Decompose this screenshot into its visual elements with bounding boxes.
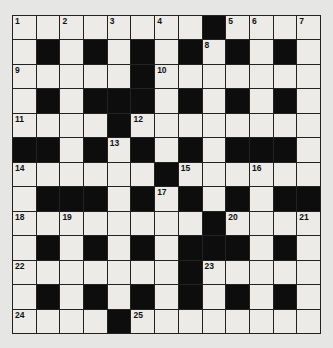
grid-cell[interactable] [60,114,83,137]
grid-cell[interactable] [274,163,297,186]
grid-cell[interactable] [155,236,178,259]
grid-cell[interactable] [84,16,107,39]
grid-cell[interactable]: 4 [155,16,178,39]
grid-cell[interactable] [37,261,60,284]
grid-cell[interactable] [155,212,178,235]
grid-cell[interactable] [37,16,60,39]
grid-cell[interactable] [226,163,249,186]
grid-cell[interactable] [155,310,178,333]
grid-cell[interactable] [131,163,154,186]
grid-cell[interactable] [131,16,154,39]
grid-cell[interactable] [203,163,226,186]
grid-cell[interactable] [274,65,297,88]
grid-cell[interactable] [37,212,60,235]
grid-cell[interactable] [274,16,297,39]
grid-cell[interactable]: 14 [13,163,36,186]
grid-cell[interactable] [84,310,107,333]
grid-cell[interactable] [60,261,83,284]
grid-cell[interactable] [250,89,273,112]
grid-cell[interactable]: 11 [13,114,36,137]
grid-cell[interactable] [250,40,273,63]
grid-cell[interactable] [297,310,320,333]
grid-cell[interactable] [60,236,83,259]
grid-cell[interactable] [226,261,249,284]
grid-cell[interactable] [226,65,249,88]
grid-cell[interactable] [203,89,226,112]
grid-cell[interactable] [274,212,297,235]
grid-cell[interactable] [250,65,273,88]
grid-cell[interactable] [13,285,36,308]
grid-cell[interactable] [226,114,249,137]
grid-cell[interactable] [250,310,273,333]
grid-cell[interactable] [37,310,60,333]
grid-cell[interactable] [250,187,273,210]
grid-cell[interactable] [13,40,36,63]
grid-cell[interactable] [203,285,226,308]
grid-cell[interactable] [274,114,297,137]
grid-cell[interactable]: 23 [203,261,226,284]
grid-cell[interactable] [297,65,320,88]
grid-cell[interactable] [297,40,320,63]
grid-cell[interactable] [155,40,178,63]
grid-cell[interactable] [108,236,131,259]
grid-cell[interactable] [60,310,83,333]
grid-cell[interactable]: 10 [155,65,178,88]
grid-cell[interactable]: 16 [250,163,273,186]
grid-cell[interactable] [60,89,83,112]
grid-cell[interactable] [297,114,320,137]
grid-cell[interactable]: 21 [297,212,320,235]
grid-cell[interactable] [84,65,107,88]
grid-cell[interactable]: 12 [131,114,154,137]
grid-cell[interactable] [155,261,178,284]
grid-cell[interactable] [297,285,320,308]
grid-cell[interactable]: 6 [250,16,273,39]
grid-cell[interactable] [60,285,83,308]
grid-cell[interactable]: 22 [13,261,36,284]
grid-cell[interactable] [226,310,249,333]
grid-cell[interactable]: 13 [108,138,131,161]
grid-cell[interactable] [155,89,178,112]
grid-cell[interactable] [13,89,36,112]
grid-cell[interactable] [179,16,202,39]
grid-cell[interactable] [297,236,320,259]
grid-cell[interactable] [60,65,83,88]
grid-cell[interactable] [155,114,178,137]
grid-cell[interactable] [155,138,178,161]
grid-cell[interactable] [297,163,320,186]
grid-cell[interactable]: 20 [226,212,249,235]
grid-cell[interactable] [179,65,202,88]
grid-cell[interactable] [60,163,83,186]
grid-cell[interactable] [179,212,202,235]
grid-cell[interactable] [203,65,226,88]
grid-cell[interactable]: 8 [203,40,226,63]
grid-cell[interactable] [13,236,36,259]
grid-cell[interactable] [250,236,273,259]
grid-cell[interactable] [297,89,320,112]
grid-cell[interactable] [297,138,320,161]
grid-cell[interactable]: 9 [13,65,36,88]
grid-cell[interactable] [108,163,131,186]
grid-cell[interactable] [60,138,83,161]
grid-cell[interactable] [13,187,36,210]
grid-cell[interactable]: 2 [60,16,83,39]
grid-cell[interactable] [131,261,154,284]
grid-cell[interactable]: 17 [155,187,178,210]
grid-cell[interactable] [84,114,107,137]
grid-cell[interactable] [37,65,60,88]
grid-cell[interactable] [155,285,178,308]
grid-cell[interactable] [60,40,83,63]
grid-cell[interactable]: 19 [60,212,83,235]
grid-cell[interactable] [297,261,320,284]
grid-cell[interactable] [37,114,60,137]
grid-cell[interactable] [108,285,131,308]
grid-cell[interactable]: 18 [13,212,36,235]
grid-cell[interactable] [274,261,297,284]
grid-cell[interactable]: 15 [179,163,202,186]
grid-cell[interactable] [108,261,131,284]
grid-cell[interactable] [108,212,131,235]
grid-cell[interactable] [250,212,273,235]
grid-cell[interactable]: 3 [108,16,131,39]
grid-cell[interactable]: 1 [13,16,36,39]
grid-cell[interactable]: 7 [297,16,320,39]
grid-cell[interactable] [108,65,131,88]
